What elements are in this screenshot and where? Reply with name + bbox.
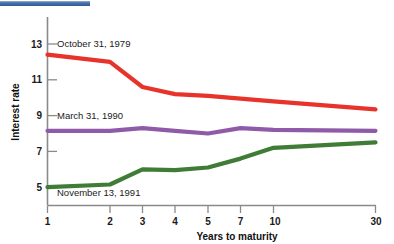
- x-tick-label-2: 2: [107, 216, 113, 227]
- series-annotation-october-1979: October 31, 1979: [57, 38, 130, 49]
- y-tick-label-7: 7: [36, 146, 42, 157]
- chart-svg: 13 11 9 7 5 1 2 3 4 5 7 10: [0, 0, 394, 244]
- y-tick-marks: [48, 44, 58, 187]
- y-tick-label-11: 11: [31, 74, 42, 85]
- x-tick-marks: [48, 206, 376, 214]
- x-tick-label-1: 1: [45, 216, 51, 227]
- x-tick-label-10: 10: [269, 216, 281, 227]
- x-tick-label-5: 5: [205, 216, 211, 227]
- x-tick-label-30: 30: [370, 216, 382, 227]
- x-axis-title: Years to maturity: [196, 231, 278, 242]
- series-line-march-1990: [48, 128, 376, 133]
- y-axis-title: Interest rate: [10, 83, 21, 141]
- x-tick-label-3: 3: [140, 216, 146, 227]
- y-tick-label-5: 5: [36, 182, 42, 193]
- x-tick-label-7: 7: [238, 216, 244, 227]
- series-annotation-november-1991: November 13, 1991: [57, 187, 140, 198]
- line-chart: 13 11 9 7 5 1 2 3 4 5 7 10: [0, 0, 394, 244]
- figure-canvas: 13 11 9 7 5 1 2 3 4 5 7 10: [0, 0, 394, 244]
- y-tick-label-9: 9: [36, 110, 42, 121]
- y-tick-label-13: 13: [31, 39, 43, 50]
- series-line-november-1991: [48, 142, 376, 187]
- series-line-october-1979: [48, 55, 376, 110]
- x-tick-label-4: 4: [172, 216, 178, 227]
- series-annotation-march-1990: March 31, 1990: [57, 110, 123, 121]
